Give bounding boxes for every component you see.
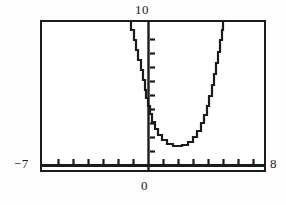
y-axis-ticks: [150, 40, 155, 152]
viewing-window-frame: [40, 20, 266, 172]
x-min-label: −7: [14, 157, 29, 170]
y-max-label: 10: [135, 3, 149, 16]
origin-label: 0: [141, 179, 148, 192]
y-axis-group: [149, 22, 156, 170]
plot-area: [42, 22, 264, 170]
x-axis-group: [42, 159, 264, 166]
parabola-curve: [131, 22, 223, 146]
plot-canvas: [42, 22, 264, 170]
graphing-calculator-screenshot: 10 −7 8 0: [0, 0, 286, 205]
x-axis-ticks: [59, 159, 254, 164]
x-max-label: 8: [270, 157, 277, 170]
